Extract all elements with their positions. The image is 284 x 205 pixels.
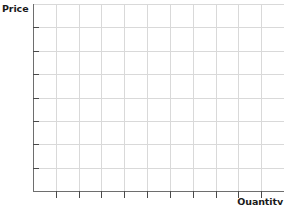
x-axis-label: Quantity — [237, 197, 283, 205]
chart-canvas: Price Quantity — [0, 0, 284, 205]
chart-plot-area — [0, 0, 284, 205]
